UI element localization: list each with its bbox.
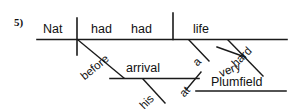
sentence-diagram-figure: 5) Nat had had life a hard very at Plumf…	[0, 0, 295, 109]
word-object-plumfield: Plumfield	[211, 76, 262, 89]
word-object-arrival: arrival	[126, 62, 160, 75]
word-verb-main-had: had	[131, 23, 152, 36]
word-verb-aux-had: had	[91, 23, 112, 36]
word-subject-nat: Nat	[43, 23, 62, 36]
item-number-label: 5)	[14, 17, 23, 28]
word-object-life: life	[193, 23, 209, 36]
